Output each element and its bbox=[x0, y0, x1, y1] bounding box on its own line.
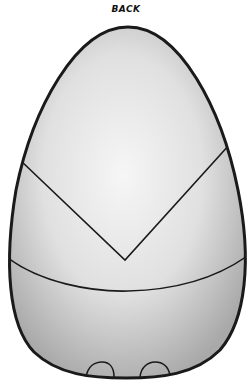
egg-illustration bbox=[0, 0, 252, 381]
egg-body bbox=[10, 27, 246, 378]
